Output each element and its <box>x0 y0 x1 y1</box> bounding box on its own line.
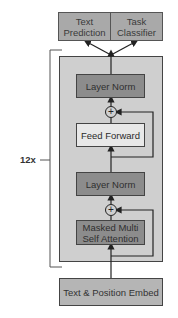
plus-symbol: + <box>108 205 114 215</box>
text-prediction-label: Text Prediction <box>59 16 110 38</box>
layer-norm-top-label: Layer Norm <box>86 81 136 92</box>
text-position-embed-label: Text & Position Embed <box>63 287 159 298</box>
residual-add-icon: + <box>105 106 117 118</box>
layer-norm-mid: Layer Norm <box>76 172 145 196</box>
task-classifier-label: Task Classifier <box>111 16 162 38</box>
masked-self-attention-label: Masked Multi Self Attention <box>77 222 144 244</box>
feed-forward-label: Feed Forward <box>81 130 140 141</box>
layer-norm-top: Layer Norm <box>76 74 145 98</box>
residual-add-icon: + <box>105 204 117 216</box>
masked-self-attention-box: Masked Multi Self Attention <box>76 220 145 245</box>
task-classifier-box: Task Classifier <box>110 12 163 41</box>
text-prediction-box: Text Prediction <box>58 12 111 41</box>
plus-symbol: + <box>108 107 114 117</box>
text-position-embed-box: Text & Position Embed <box>59 278 163 306</box>
repeat-count-label: 12x <box>20 154 36 165</box>
feed-forward-box: Feed Forward <box>76 123 145 147</box>
layer-norm-mid-label: Layer Norm <box>86 179 136 190</box>
